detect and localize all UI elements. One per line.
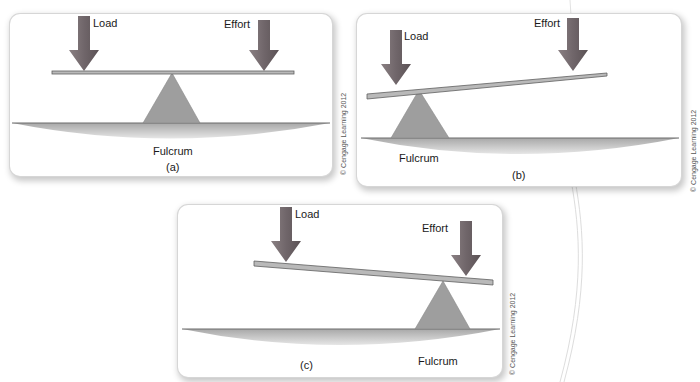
copyright-a: © Cengage Learning 2012	[340, 93, 347, 175]
copyright-b: © Cengage Learning 2012	[690, 110, 697, 192]
fulcrum-label: Fulcrum	[418, 355, 458, 367]
panel-c: Load Effort Fulcrum (c)	[178, 205, 502, 377]
fulcrum-label: Fulcrum	[399, 152, 439, 164]
ground-shape	[12, 123, 330, 139]
effort-arrow-icon	[558, 18, 588, 71]
caption-a: (a)	[166, 161, 179, 173]
copyright-c: © Cengage Learning 2012	[509, 293, 516, 375]
load-label: Load	[93, 17, 117, 29]
fulcrum-triangle	[391, 90, 449, 138]
fulcrum-triangle	[415, 281, 470, 329]
caption-c: (c)	[300, 359, 313, 371]
load-label: Load	[404, 30, 428, 42]
lever-bar	[52, 71, 294, 74]
panel-b: Load Effort Fulcrum (b)	[357, 14, 681, 186]
lever-bar	[367, 73, 607, 99]
lever-diagram-c	[178, 205, 502, 377]
effort-arrow-icon	[249, 20, 279, 71]
caption-b: (b)	[512, 169, 525, 181]
effort-label: Effort	[224, 18, 250, 30]
lever-bar	[254, 261, 493, 285]
effort-label: Effort	[422, 222, 448, 234]
effort-label: Effort	[534, 17, 560, 29]
fulcrum-label: Fulcrum	[153, 145, 193, 157]
load-label: Load	[295, 208, 319, 220]
fulcrum-triangle	[143, 73, 200, 123]
panel-a: Load Effort Fulcrum (a)	[10, 14, 332, 176]
effort-arrow-icon	[451, 221, 481, 276]
